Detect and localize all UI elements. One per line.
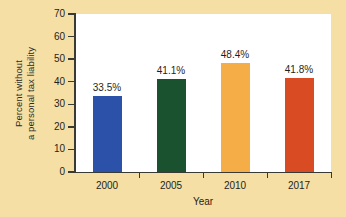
bar [285,78,314,172]
bar-value-label: 41.8% [269,64,329,75]
y-axis-tick-label: 40 [25,77,65,87]
x-axis-tick-label: 2000 [83,180,131,191]
y-axis-tick [68,36,75,37]
x-axis-title: Year [75,196,331,207]
x-axis-tick-label: 2017 [275,180,323,191]
x-axis-tick [203,172,204,178]
y-axis-title-line1: Percent without [14,46,26,139]
x-axis-tick-label: 2010 [211,180,259,191]
y-axis-tick [68,58,75,59]
bar-value-label: 48.4% [205,49,265,60]
y-axis-tick-label: 30 [25,99,65,109]
x-axis-tick-label: 2005 [147,180,195,191]
y-axis-tick [68,171,75,172]
y-axis-tick [68,126,75,127]
bar [157,79,186,172]
bar [93,96,122,172]
bar-value-label: 33.5% [77,82,137,93]
y-axis-tick [68,149,75,150]
y-axis-tick-label: 0 [25,167,65,177]
y-axis-tick-label: 50 [25,54,65,64]
y-axis-tick [68,104,75,105]
y-axis-tick-label: 70 [25,9,65,19]
x-axis-tick [331,172,332,178]
x-axis-tick [139,172,140,178]
y-axis-tick-label: 20 [25,122,65,132]
bar-value-label: 41.1% [141,65,201,76]
y-axis-tick [68,81,75,82]
bar-chart: Percent without a personal tax liability… [0,0,346,217]
x-axis-tick [267,172,268,178]
y-axis-tick-label: 60 [25,32,65,42]
y-axis-tick-label: 10 [25,144,65,154]
y-axis-tick [68,13,75,14]
bar [221,63,250,172]
